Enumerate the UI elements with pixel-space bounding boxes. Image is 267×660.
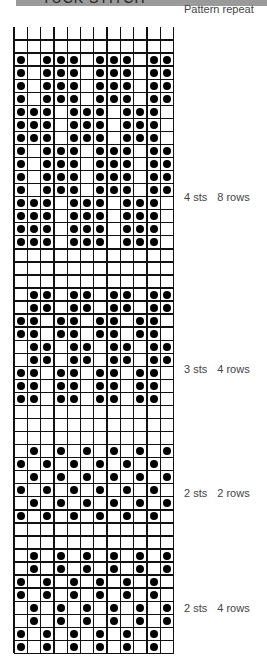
tuck-dot-icon [17,591,25,599]
stitch-cell-tuck [120,144,133,157]
stitch-cell-tuck [14,171,27,184]
stitch-cell-tuck [134,614,147,627]
grid-hline [14,39,174,40]
tuck-dot-icon [96,317,104,325]
tuck-dot-icon [123,486,131,494]
stitch-cell-tuck [107,366,120,379]
stitch-cell-tuck [67,210,80,223]
stitch-cell-tuck [107,144,120,157]
tuck-dot-icon [17,486,25,494]
stitch-cell-tuck [14,79,27,92]
stitch-cell-tuck [107,53,120,66]
stitch-cell-tuck [14,144,27,157]
tuck-dot-icon [70,238,78,246]
tuck-dot-icon [123,134,131,142]
stitch-cell-tuck [81,301,94,314]
tuck-dot-icon [123,591,131,599]
tuck-dot-icon [17,69,25,77]
tuck-dot-icon [123,82,131,90]
tuck-dot-icon [136,212,144,220]
stitch-cell-tuck [41,627,54,640]
stitch-cell-tuck [81,471,94,484]
tuck-dot-icon [110,473,118,481]
tuck-dot-icon [123,578,131,586]
stitch-cell-tuck [120,353,133,366]
stitch-cell-tuck [54,92,67,105]
tuck-dot-icon [17,512,25,520]
stitch-cell-tuck [27,197,40,210]
stitch-cell-tuck [14,327,27,340]
stitch-cell-tuck [107,66,120,79]
tuck-dot-icon [70,160,78,168]
tuck-dot-icon [150,95,158,103]
stitch-cell-tuck [67,575,80,588]
grid-hline [14,601,174,602]
tuck-dot-icon [17,395,25,403]
tuck-dot-icon [57,499,65,507]
tuck-dot-icon [123,291,131,299]
tuck-dot-icon [110,369,118,377]
grid-hline [14,444,174,445]
stitch-cell-tuck [107,562,120,575]
tuck-dot-icon [43,121,51,129]
tuck-dot-icon [30,565,38,573]
grid-hline [14,470,174,471]
stitch-cell-tuck [94,588,107,601]
stitch-cell-tuck [67,640,80,653]
tuck-dot-icon [110,304,118,312]
tuck-dot-icon [123,199,131,207]
stitch-cell-tuck [14,105,27,118]
grid-hline [14,326,174,327]
tuck-dot-icon [30,225,38,233]
grid-hline [14,235,174,236]
stitch-cell-tuck [67,510,80,523]
stitch-cell-tuck [134,366,147,379]
tuck-dot-icon [17,82,25,90]
stitch-cell-tuck [14,131,27,144]
tuck-dot-icon [163,291,171,299]
stitch-cell-tuck [94,314,107,327]
rows-count: 2 rows [217,487,249,499]
tuck-dot-icon [123,356,131,364]
stitch-cell-tuck [147,144,160,157]
tuck-dot-icon [96,186,104,194]
stitch-cell-tuck [94,379,107,392]
stitch-cell-tuck [27,314,40,327]
stitch-cell-tuck [14,236,27,249]
stitch-cell-tuck [14,158,27,171]
tuck-dot-icon [150,225,158,233]
stitch-cell-tuck [67,392,80,405]
stitch-cell-tuck [14,366,27,379]
tuck-dot-icon [96,212,104,220]
tuck-dot-icon [17,369,25,377]
tuck-dot-icon [150,395,158,403]
tuck-dot-icon [17,95,25,103]
stitch-cell-tuck [147,340,160,353]
tuck-dot-icon [30,330,38,338]
tuck-dot-icon [57,147,65,155]
stitch-cell-tuck [160,445,173,458]
tuck-dot-icon [43,486,51,494]
section-label: 3 sts4 rows [184,363,250,375]
rows-count: 4 rows [217,602,249,614]
grid-hline [14,92,174,93]
tuck-dot-icon [123,238,131,246]
tuck-dot-icon [136,473,144,481]
tuck-dot-icon [123,225,131,233]
stitch-cell-tuck [120,66,133,79]
tuck-dot-icon [163,304,171,312]
grid-hline [14,483,174,484]
tuck-dot-icon [17,630,25,638]
tuck-dot-icon [17,186,25,194]
tuck-dot-icon [83,225,91,233]
grid-hline [14,614,174,615]
stitch-cell-tuck [107,379,120,392]
stitch-cell-tuck [120,131,133,144]
section-label: 4 sts8 rows [184,191,250,203]
stitches-count: 3 sts [184,363,207,375]
stitches-count: 4 sts [184,191,207,203]
tuck-dot-icon [136,604,144,612]
tuck-dot-icon [57,617,65,625]
grid-hline [14,144,174,145]
tuck-dot-icon [83,356,91,364]
